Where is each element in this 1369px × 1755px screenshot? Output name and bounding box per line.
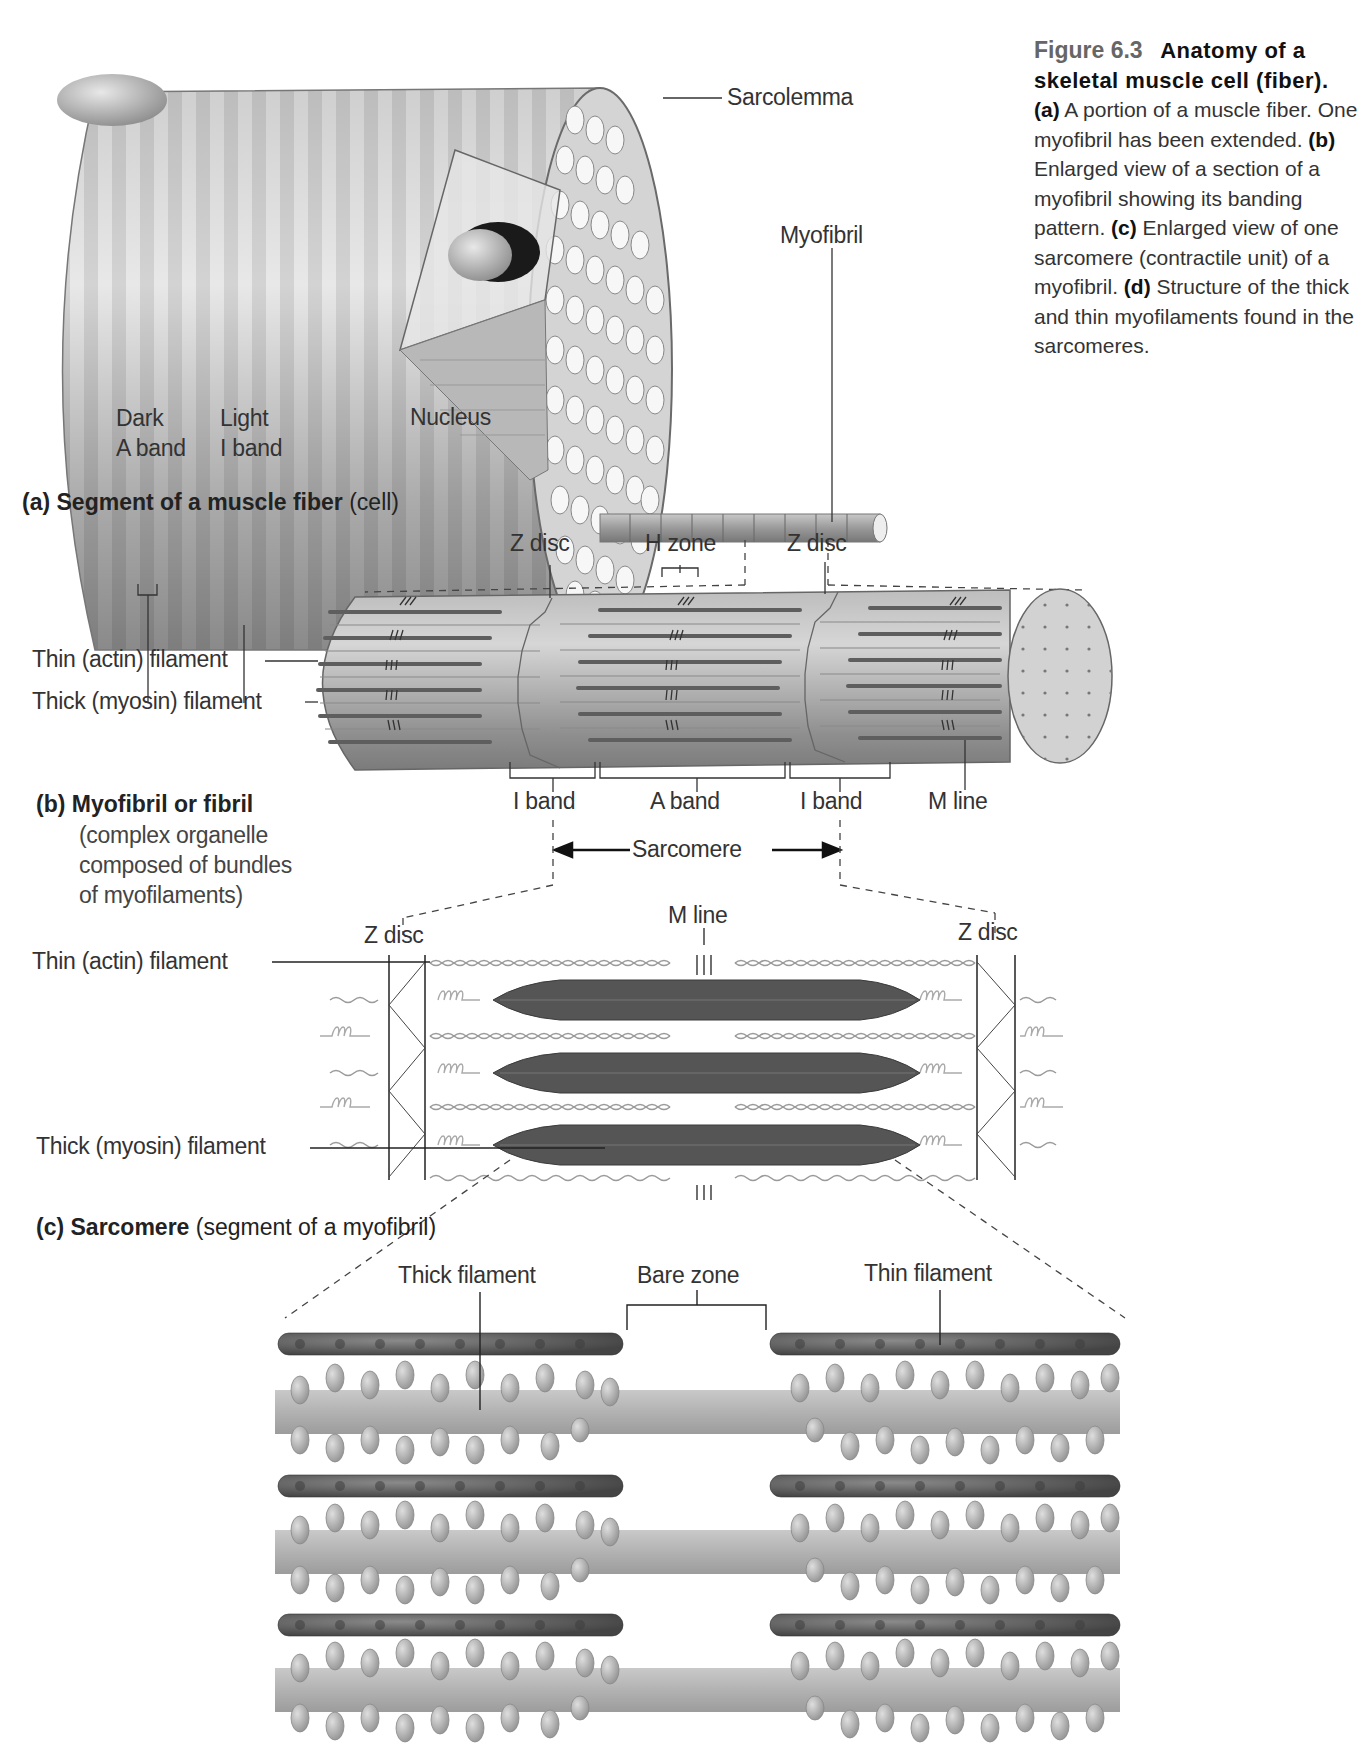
label-i-band: I band: [220, 435, 282, 463]
label-thin-filament-b: Thin (actin) filament: [32, 646, 228, 674]
label-sarcomere: Sarcomere: [632, 836, 742, 864]
sarcomere-illustration: [272, 928, 1125, 1318]
figure-caption: Figure 6.3 Anatomy of a skeletal muscle …: [1034, 36, 1369, 361]
panel-c-title: (c) Sarcomere (segment of a myofibril): [36, 1213, 436, 1242]
label-nucleus: Nucleus: [410, 404, 491, 432]
panel-b-subtitle-3: of myofilaments): [79, 882, 243, 910]
panel-a-title-bold: (a) Segment of a muscle fiber: [22, 489, 343, 515]
label-thin-filament-d: Thin filament: [864, 1260, 992, 1288]
caption-key-b: (b): [1308, 128, 1335, 151]
panel-b-title-bold: (b) Myofibril or fibril: [36, 791, 253, 817]
label-myofibril: Myofibril: [780, 222, 863, 250]
label-a-band: A band: [116, 435, 186, 463]
caption-key-d: (d): [1124, 275, 1151, 298]
panel-b-subtitle-1: (complex organelle: [79, 822, 268, 850]
label-thick-filament-b: Thick (myosin) filament: [32, 688, 262, 716]
figure-number: Figure 6.3: [1034, 37, 1143, 63]
caption-key-c: (c): [1111, 216, 1137, 239]
label-z-disc-left-b: Z disc: [510, 530, 570, 558]
panel-c-title-normal: (segment of a myofibril): [189, 1214, 436, 1240]
label-m-line-c: M line: [668, 902, 728, 930]
label-thick-filament-d: Thick filament: [398, 1262, 536, 1290]
label-bare-zone: Bare zone: [637, 1262, 739, 1290]
figure-title-line1: Anatomy of a: [1160, 38, 1305, 63]
label-z-disc-right-c: Z disc: [958, 919, 1018, 947]
panel-a-title-normal: (cell): [343, 489, 399, 515]
label-m-line-b: M line: [928, 788, 988, 816]
label-thick-filament-c: Thick (myosin) filament: [36, 1133, 266, 1161]
panel-c-title-bold: (c) Sarcomere: [36, 1214, 189, 1240]
panel-b-subtitle-2: composed of bundles: [79, 852, 292, 880]
label-h-zone: H zone: [645, 530, 716, 558]
panel-a-title: (a) Segment of a muscle fiber (cell): [22, 488, 399, 517]
myofilament-structure-illustration: [275, 1290, 1120, 1742]
label-z-disc-right-b: Z disc: [787, 530, 847, 558]
label-i-band-right: I band: [800, 788, 862, 816]
figure-title-line2: skeletal muscle cell (fiber).: [1034, 68, 1329, 93]
caption-key-a: (a): [1034, 98, 1060, 121]
label-z-disc-left-c: Z disc: [364, 922, 424, 950]
label-dark: Dark: [116, 405, 163, 433]
label-thin-filament-c: Thin (actin) filament: [32, 948, 228, 976]
myofibril-illustration: [265, 562, 1112, 935]
label-i-band-left: I band: [513, 788, 575, 816]
panel-b-title: (b) Myofibril or fibril: [36, 790, 253, 819]
label-sarcolemma: Sarcolemma: [727, 84, 853, 112]
label-a-band-b: A band: [650, 788, 720, 816]
label-light: Light: [220, 405, 268, 433]
